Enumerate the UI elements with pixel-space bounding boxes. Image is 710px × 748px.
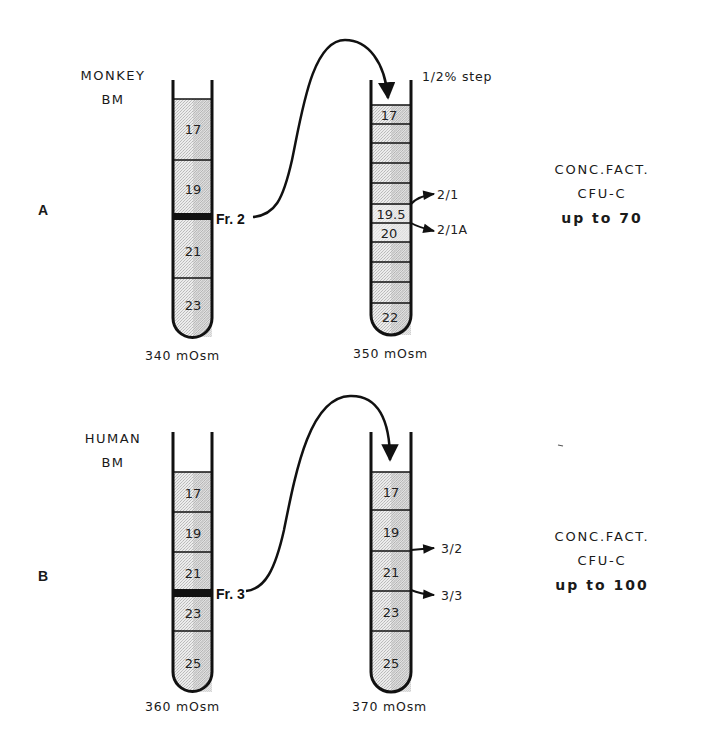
tube-b1: 17 19 21 23 25	[173, 432, 213, 692]
output-arrow-2-1	[411, 194, 434, 204]
output-label: 3/3	[441, 588, 463, 603]
band-label: 25	[383, 656, 400, 671]
output-arrow-3-2	[411, 548, 434, 550]
fraction-band-a	[173, 213, 213, 220]
tube-a2: 17 19.5 20 22	[371, 80, 411, 335]
output-arrow-3-3	[411, 590, 434, 595]
output-label: 3/2	[441, 541, 463, 556]
band-label: 21	[185, 244, 202, 259]
output-arrow-2-1a	[411, 223, 434, 231]
band-label: 21	[383, 565, 400, 580]
tube-a1: 17 19 21 23	[173, 80, 213, 338]
band-label: 23	[383, 605, 400, 620]
gradient-diagram: 17 19 21 23 Fr. 2 17 19.5 20 22 2/1	[0, 0, 710, 748]
output-label: 2/1	[437, 187, 459, 202]
band-label: 19.5	[377, 207, 406, 222]
band-label: 19	[383, 525, 400, 540]
band-label: 19	[185, 526, 202, 541]
band-label: 17	[383, 485, 400, 500]
band-label: 21	[185, 566, 202, 581]
band-label: 22	[382, 310, 399, 325]
band-label: 23	[185, 606, 202, 621]
band-label: 19	[185, 182, 202, 197]
fraction-label-b: Fr. 3	[216, 586, 245, 602]
band-label: 20	[381, 226, 398, 241]
transfer-arrow-a	[253, 40, 388, 217]
fraction-label-a: Fr. 2	[216, 211, 245, 227]
transfer-arrow-b	[246, 396, 390, 591]
band-label: 23	[185, 298, 202, 313]
fraction-band-b	[173, 589, 213, 597]
band-label: 17	[185, 486, 202, 501]
output-label: 2/1A	[437, 222, 468, 237]
speck-mark	[558, 445, 563, 446]
tube-b2: 17 19 21 23 25	[371, 432, 411, 692]
band-label: 25	[185, 656, 202, 671]
band-label: 17	[381, 108, 398, 123]
band-label: 17	[185, 122, 202, 137]
